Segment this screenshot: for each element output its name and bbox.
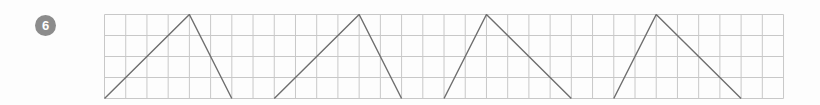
grid-lines	[105, 15, 784, 99]
exercise-number-badge: 6	[35, 15, 56, 36]
grid-drawing	[104, 14, 785, 99]
graph-paper-grid	[104, 14, 785, 99]
